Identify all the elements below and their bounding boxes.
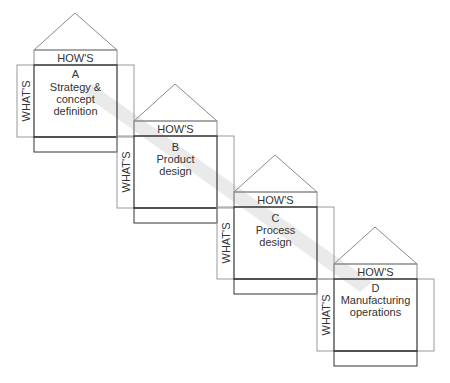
house-title-line-2: concept (56, 93, 95, 105)
house-c: HOW'S WHAT'S C Process design (217, 155, 334, 294)
hows-label: HOW'S (157, 123, 193, 135)
hows-label: HOW'S (57, 52, 93, 64)
roof (234, 155, 317, 192)
house-title-line-2: design (159, 165, 191, 177)
whats-label: WHAT'S (20, 80, 32, 121)
roof (134, 84, 217, 121)
whats-label: WHAT'S (220, 222, 232, 263)
house-title-line-3: definition (53, 105, 97, 117)
house-letter: C (272, 212, 280, 224)
hows-label: HOW'S (257, 194, 293, 206)
bottom-box (334, 351, 417, 366)
house-of-quality-cascade-diagram: HOW'S WHAT'S A Strategy & concept defini… (0, 0, 450, 383)
hows-label: HOW'S (357, 266, 393, 278)
house-letter: D (372, 282, 380, 294)
house-title-line-1: Strategy & (50, 81, 102, 93)
house-title-line-1: Process (256, 224, 296, 236)
house-b: HOW'S WHAT'S B Product design (117, 84, 234, 223)
house-letter: A (72, 68, 80, 80)
house-title-line-2: operations (350, 306, 402, 318)
bottom-box (234, 279, 317, 294)
whats-label: WHAT'S (320, 294, 332, 335)
house-title-line-1: Product (157, 153, 195, 165)
house-title-line-1: Manufacturing (341, 294, 411, 306)
house-a: HOW'S WHAT'S A Strategy & concept defini… (17, 13, 134, 152)
roof (34, 13, 117, 50)
house-letter: B (172, 141, 179, 153)
house-d: HOW'S WHAT'S D Manufacturing operations (317, 227, 434, 366)
roof (334, 227, 417, 264)
house-title-line-2: design (259, 236, 291, 248)
bottom-box (134, 208, 217, 223)
bottom-box (34, 137, 117, 152)
whats-label: WHAT'S (120, 151, 132, 192)
